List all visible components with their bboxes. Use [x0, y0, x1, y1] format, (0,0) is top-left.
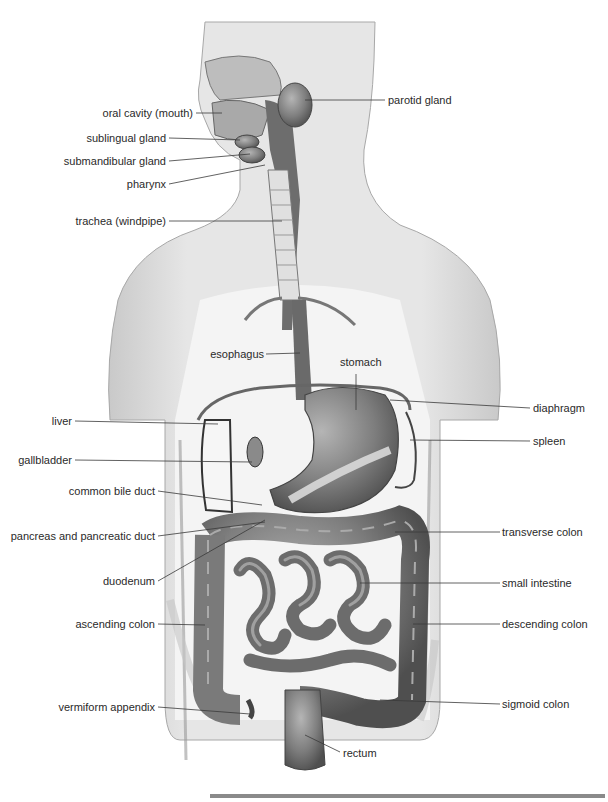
label-spleen: spleen — [533, 435, 565, 447]
label-sigmoid-colon: sigmoid colon — [502, 698, 569, 710]
label-esophagus: esophagus — [210, 348, 264, 360]
label-trachea: trachea (windpipe) — [76, 215, 167, 227]
label-liver: liver — [52, 415, 72, 427]
label-duodenum: duodenum — [103, 575, 155, 587]
label-diaphragm: diaphragm — [533, 402, 585, 414]
label-sublingual-gland: sublingual gland — [86, 132, 166, 144]
label-small-intestine: small intestine — [502, 577, 572, 589]
label-common-bile-duct: common bile duct — [69, 485, 155, 497]
anatomy-illustration — [0, 0, 608, 802]
label-pancreas: pancreas and pancreatic duct — [11, 530, 155, 542]
label-submandibular-gland: submandibular gland — [64, 155, 166, 167]
gallbladder — [247, 437, 263, 467]
label-rectum: rectum — [343, 747, 377, 759]
label-stomach: stomach — [340, 356, 382, 368]
label-oral-cavity: oral cavity (mouth) — [103, 107, 193, 119]
label-transverse-colon: transverse colon — [502, 526, 583, 538]
label-parotid-gland: parotid gland — [388, 94, 452, 106]
label-vermiform-appendix: vermiform appendix — [58, 701, 155, 713]
footer-rule — [210, 794, 605, 798]
label-gallbladder: gallbladder — [18, 454, 72, 466]
label-descending-colon: descending colon — [502, 618, 588, 630]
digestive-system-diagram: oral cavity (mouth) sublingual gland sub… — [0, 0, 608, 802]
label-ascending-colon: ascending colon — [75, 618, 155, 630]
label-pharynx: pharynx — [127, 178, 166, 190]
